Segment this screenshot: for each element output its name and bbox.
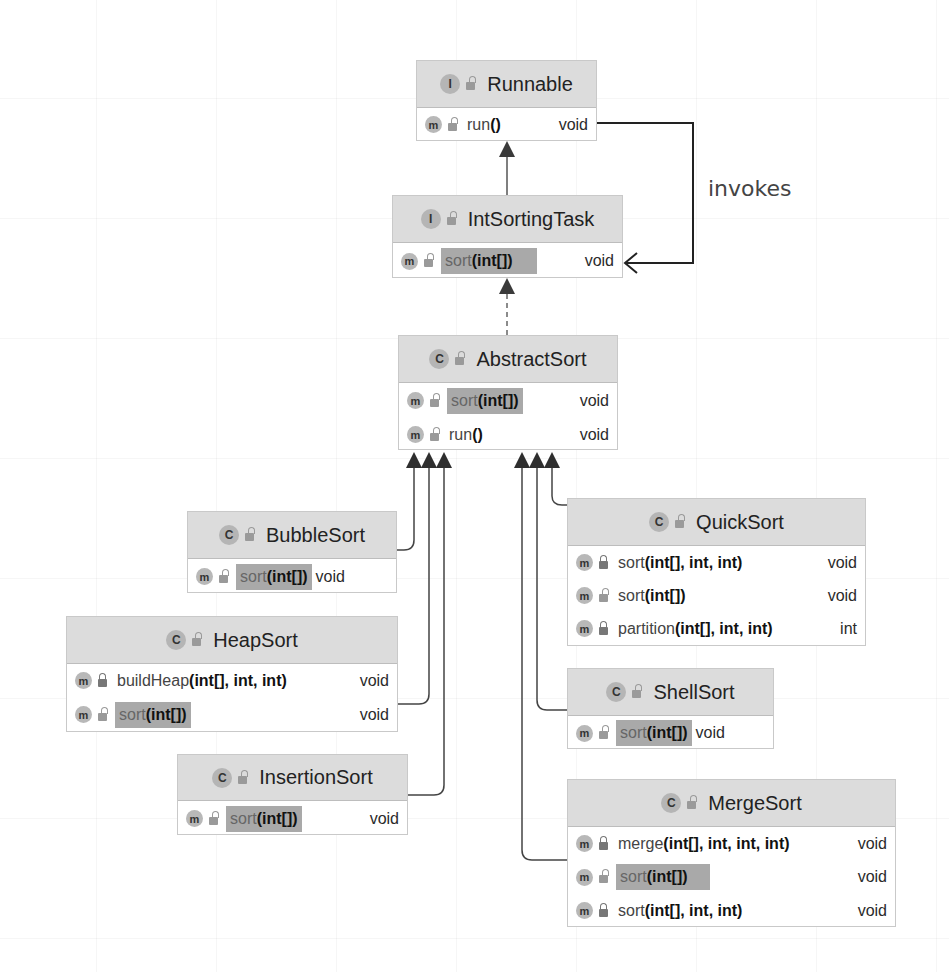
class-icon: C: [212, 768, 232, 788]
invokes-label: invokes: [708, 176, 792, 201]
class-intsortingtask[interactable]: I IntSortingTask m sort(int[]) void: [392, 195, 623, 278]
method-row[interactable]: m sort(int[]) void: [188, 559, 396, 594]
private-visibility-icon: [599, 627, 608, 635]
method-row[interactable]: m partition(int[], int, int) int: [568, 612, 865, 645]
public-visibility-icon: [238, 776, 247, 784]
class-mergesort[interactable]: C MergeSort m merge(int[], int, int, int…: [567, 779, 896, 927]
class-quicksort[interactable]: C QuickSort m sort(int[], int, int) void…: [567, 498, 866, 646]
public-visibility-icon: [424, 259, 433, 267]
method-icon: m: [75, 672, 92, 689]
class-header: C BubbleSort: [188, 512, 396, 559]
return-type: void: [354, 672, 389, 690]
private-visibility-icon: [599, 561, 608, 569]
method-row[interactable]: m run() void: [417, 108, 596, 141]
method-row[interactable]: m sort(int[]) void: [393, 243, 622, 279]
public-visibility-icon: [448, 123, 457, 131]
method-params: (): [472, 426, 483, 443]
public-visibility-icon: [599, 875, 608, 883]
method-params: (int[]): [647, 868, 688, 885]
method-icon: m: [576, 902, 593, 919]
method-icon: m: [576, 587, 593, 604]
method-name: sort: [618, 902, 645, 919]
return-type: void: [574, 392, 609, 410]
method-name: run: [467, 116, 490, 133]
method-name: sort: [445, 252, 472, 269]
class-runnable[interactable]: I Runnable m run() void: [416, 60, 597, 141]
method-params: (int[]): [478, 392, 519, 409]
method-icon: m: [576, 620, 593, 637]
return-type: void: [822, 587, 857, 605]
public-visibility-icon: [219, 575, 228, 583]
class-abstractsort[interactable]: C AbstractSort m sort(int[]) void m run(…: [398, 335, 618, 450]
public-visibility-icon: [675, 520, 684, 528]
method-icon: m: [196, 568, 213, 585]
return-type: void: [553, 116, 588, 134]
edge-quicksort: [552, 468, 567, 505]
class-name: MergeSort: [708, 792, 801, 815]
method-row[interactable]: m sort(int[]) void: [67, 697, 397, 732]
class-name: InsertionSort: [259, 766, 372, 789]
public-visibility-icon: [599, 594, 608, 602]
method-icon: m: [425, 116, 442, 133]
method-row[interactable]: m sort(int[]) void: [568, 579, 865, 612]
class-insertionsort[interactable]: C InsertionSort m sort(int[]) void: [177, 754, 408, 835]
public-visibility-icon: [466, 82, 475, 90]
return-type: void: [852, 868, 887, 886]
return-type: void: [696, 724, 725, 742]
method-params: (): [490, 116, 501, 133]
interface-icon: I: [421, 209, 441, 229]
class-heapsort[interactable]: C HeapSort m buildHeap(int[], int, int) …: [66, 616, 398, 732]
edge-intsortingtask-runnable: [499, 141, 515, 195]
method-params: (int[]): [647, 724, 688, 741]
method-name: sort: [240, 568, 267, 585]
class-header: C InsertionSort: [178, 755, 407, 801]
class-icon: C: [661, 793, 681, 813]
method-icon: m: [576, 869, 593, 886]
interface-icon: I: [440, 74, 460, 94]
public-visibility-icon: [192, 638, 201, 646]
return-type: void: [852, 835, 887, 853]
class-name: Runnable: [487, 73, 573, 96]
return-type: void: [579, 252, 614, 270]
private-visibility-icon: [599, 909, 608, 917]
method-params: (int[], int, int): [675, 620, 773, 637]
class-name: QuickSort: [696, 511, 784, 534]
public-visibility-icon: [599, 731, 608, 739]
method-name: sort: [230, 810, 257, 827]
class-bubblesort[interactable]: C BubbleSort m sort(int[]) void: [187, 511, 397, 593]
method-row[interactable]: m sort(int[]) void: [178, 801, 407, 836]
edge-abstractsort-intsortingtask: [499, 278, 515, 335]
method-name: sort: [620, 868, 647, 885]
return-type: void: [574, 426, 609, 444]
public-visibility-icon: [632, 690, 641, 698]
class-name: HeapSort: [213, 629, 298, 652]
public-visibility-icon: [455, 357, 464, 365]
method-row[interactable]: m sort(int[], int, int) void: [568, 546, 865, 579]
abstract-class-icon: C: [429, 349, 449, 369]
public-visibility-icon: [98, 713, 107, 721]
method-icon: m: [576, 554, 593, 571]
class-header: C ShellSort: [568, 669, 773, 716]
return-type: void: [316, 568, 345, 586]
method-row[interactable]: m sort(int[], int, int) void: [568, 894, 895, 927]
method-icon: m: [407, 392, 424, 409]
method-row[interactable]: m run() void: [399, 418, 617, 451]
method-name: sort: [119, 706, 146, 723]
method-name: sort: [618, 554, 645, 571]
method-row[interactable]: m sort(int[]) void: [399, 383, 617, 418]
public-visibility-icon: [209, 817, 218, 825]
method-row[interactable]: m sort(int[]) void: [568, 716, 773, 750]
return-type: void: [822, 554, 857, 572]
inheritance-arrowheads: [406, 452, 560, 468]
method-row[interactable]: m merge(int[], int, int, int) void: [568, 827, 895, 860]
method-params: (int[], int, int): [189, 672, 287, 689]
class-shellsort[interactable]: C ShellSort m sort(int[]) void: [567, 668, 774, 749]
method-row[interactable]: m buildHeap(int[], int, int) void: [67, 664, 397, 697]
method-params: (int[]): [257, 810, 298, 827]
private-visibility-icon: [599, 842, 608, 850]
method-row[interactable]: m sort(int[]) void: [568, 860, 895, 894]
public-visibility-icon: [245, 533, 254, 541]
return-type: int: [834, 620, 857, 638]
method-name: sort: [451, 392, 478, 409]
class-icon: C: [219, 525, 239, 545]
